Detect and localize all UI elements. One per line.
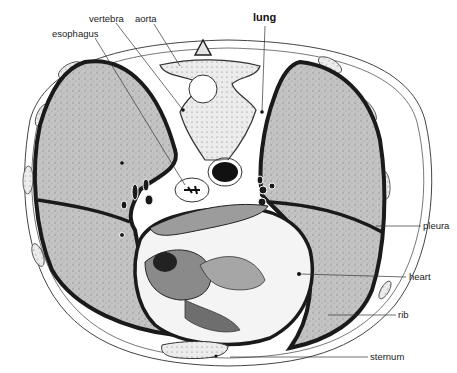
esophagus-structure [175, 178, 209, 202]
label-pleura: pleura [423, 221, 449, 231]
aorta-vessel [211, 161, 239, 183]
label-vertebra: vertebra [89, 14, 124, 24]
thorax-cross-section-diagram: vertebra aorta esophagus lung pleura hea… [0, 0, 457, 373]
label-esophagus: esophagus [52, 29, 98, 39]
label-sternum: sternum [370, 352, 404, 362]
label-aorta: aorta [135, 14, 157, 24]
heart-organ [135, 204, 312, 344]
label-heart: heart [409, 272, 431, 282]
diagram-artwork [0, 0, 457, 373]
sternum-bone [162, 341, 228, 358]
label-lung: lung [253, 12, 276, 23]
label-rib: rib [398, 310, 409, 320]
